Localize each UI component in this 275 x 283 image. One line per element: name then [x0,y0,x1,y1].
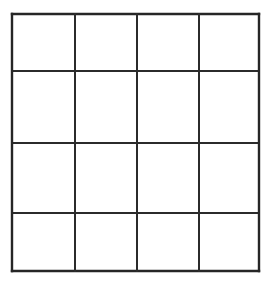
grid-cell-r2-c3[interactable] [137,71,199,143]
grid-cell-r4-c3[interactable] [137,213,199,271]
grid-cell-r4-c2[interactable] [75,213,137,271]
grid-cell-r1-c1[interactable] [12,14,75,71]
grid-cell-r2-c4[interactable] [199,71,259,143]
figure-canvas [0,0,275,283]
grid-cell-r2-c2[interactable] [75,71,137,143]
grid-cell-r3-c1[interactable] [12,143,75,213]
grid-cell-r2-c1[interactable] [12,71,75,143]
grid-cell-r4-c1[interactable] [12,213,75,271]
grid-cell-r1-c4[interactable] [199,14,259,71]
grid-cell-r1-c3[interactable] [137,14,199,71]
grid-cell-r1-c2[interactable] [75,14,137,71]
grid-cell-r3-c3[interactable] [137,143,199,213]
grid-cell-r4-c4[interactable] [199,213,259,271]
grid-cell-r3-c4[interactable] [199,143,259,213]
grid-cell-r3-c2[interactable] [75,143,137,213]
